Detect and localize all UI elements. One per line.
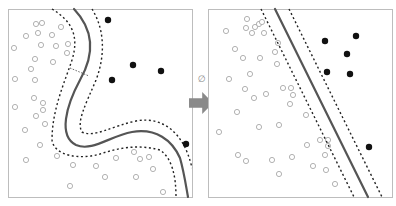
positive-class-point: [105, 17, 111, 23]
negative-class-point: [243, 25, 248, 30]
negative-class-point: [280, 85, 285, 90]
positive-class-point: [344, 51, 350, 57]
negative-class-point: [160, 189, 165, 194]
negative-class-point: [223, 28, 228, 33]
negative-class-point: [64, 50, 69, 55]
negative-class-point: [332, 181, 337, 186]
negative-class-point: [322, 152, 327, 157]
negative-class-point: [53, 43, 58, 48]
negative-class-point: [243, 158, 248, 163]
negative-class-point: [303, 112, 308, 117]
negative-class-point: [33, 113, 38, 118]
positive-class-point: [130, 62, 136, 68]
negative-class-point: [12, 104, 17, 109]
negative-class-point: [216, 129, 221, 134]
positive-class-point: [183, 141, 189, 147]
feature-space-panel: [209, 9, 393, 198]
negative-class-point: [317, 137, 322, 142]
input-space-frame: [9, 10, 193, 198]
negative-class-point: [113, 155, 118, 160]
negative-class-point: [39, 20, 44, 25]
negative-class-point: [102, 174, 107, 179]
negative-class-point: [31, 95, 36, 100]
negative-class-point: [37, 142, 42, 147]
positive-class-point: [347, 71, 353, 77]
positive-class-point: [109, 77, 115, 83]
diagram-canvas: ∅: [0, 0, 396, 206]
negative-class-point: [67, 183, 72, 188]
negative-class-point: [40, 107, 45, 112]
negative-class-point: [23, 157, 28, 162]
negative-class-point: [259, 19, 264, 24]
negative-class-point: [49, 32, 54, 37]
negative-class-point: [274, 61, 279, 66]
negative-class-point: [42, 121, 47, 126]
negative-class-point: [70, 162, 75, 167]
negative-class-point: [261, 30, 266, 35]
negative-class-point: [33, 21, 38, 26]
negative-class-point: [240, 55, 245, 60]
negative-class-point: [272, 49, 277, 54]
negative-class-point: [226, 76, 231, 81]
negative-class-point: [257, 55, 262, 60]
negative-class-point: [137, 156, 142, 161]
svm-kernel-diagram: ∅: [0, 0, 396, 206]
negative-class-point: [93, 163, 98, 168]
negative-class-point: [54, 153, 59, 158]
negative-class-point: [131, 149, 136, 154]
negative-class-point: [249, 30, 254, 35]
negative-class-point: [11, 45, 16, 50]
phi-symbol: ∅: [198, 74, 206, 84]
negative-class-point: [232, 46, 237, 51]
negative-class-point: [304, 142, 309, 147]
negative-class-point: [235, 152, 240, 157]
negative-class-point: [133, 174, 138, 179]
negative-class-point: [276, 171, 281, 176]
positive-class-point: [324, 69, 330, 75]
negative-class-point: [23, 33, 28, 38]
negative-class-point: [323, 167, 328, 172]
negative-class-point: [310, 163, 315, 168]
negative-class-point: [287, 101, 292, 106]
positive-class-point: [322, 38, 328, 44]
negative-class-point: [32, 77, 37, 82]
negative-class-point: [247, 71, 252, 76]
negative-class-point: [65, 41, 70, 46]
negative-class-point: [263, 91, 268, 96]
negative-class-point: [150, 166, 155, 171]
negative-class-point: [289, 154, 294, 159]
negative-class-point: [28, 66, 33, 71]
positive-class-point: [353, 33, 359, 39]
negative-class-point: [38, 42, 43, 47]
negative-class-point: [234, 109, 239, 114]
negative-class-point: [35, 30, 40, 35]
negative-class-point: [22, 127, 27, 132]
negative-class-point: [40, 100, 45, 105]
negative-class-point: [58, 24, 63, 29]
positive-class-point: [158, 68, 164, 74]
input-space-panel: [9, 9, 193, 198]
negative-class-point: [12, 76, 17, 81]
negative-class-point: [50, 59, 55, 64]
negative-class-point: [244, 16, 249, 21]
negative-class-point: [32, 56, 37, 61]
positive-class-point: [366, 144, 372, 150]
negative-class-point: [242, 86, 247, 91]
negative-class-point: [146, 154, 151, 159]
negative-class-point: [288, 85, 293, 90]
negative-class-point: [276, 122, 281, 127]
negative-class-point: [256, 124, 261, 129]
negative-class-point: [269, 157, 274, 162]
negative-class-point: [251, 95, 256, 100]
feature-space-frame: [209, 10, 393, 198]
negative-class-point: [290, 92, 295, 97]
